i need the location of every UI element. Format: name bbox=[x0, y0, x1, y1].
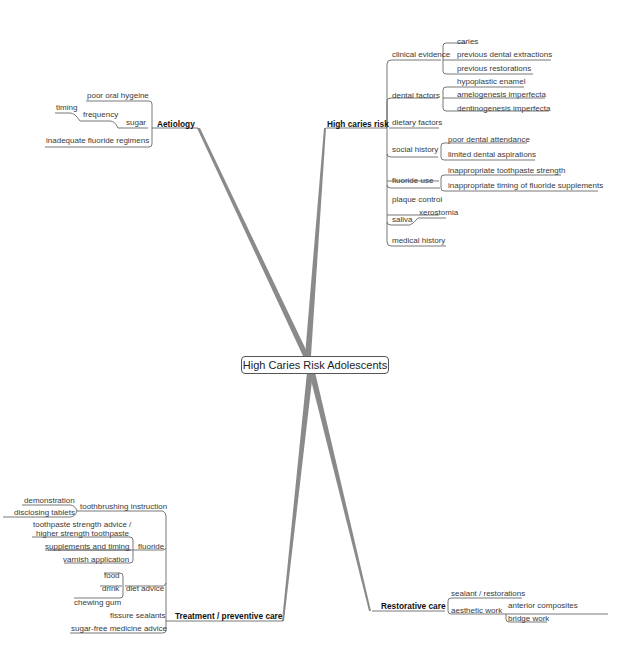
branch-high-caries-risk-label[interactable]: High caries risk bbox=[327, 119, 389, 129]
branch-restorative bbox=[309, 372, 371, 611]
node-toothbrushing-instruction[interactable]: toothbrushing instruction bbox=[80, 502, 167, 512]
node-diet-advice[interactable]: diet advice bbox=[126, 584, 164, 594]
node-dental-factors[interactable]: dental factors bbox=[392, 91, 440, 101]
node-plaque-control[interactable]: plaque control bbox=[392, 195, 442, 205]
node-food[interactable]: food bbox=[104, 571, 120, 581]
node-fluoride-use[interactable]: fluoride use bbox=[392, 176, 433, 186]
central-node[interactable]: High Caries Risk Adolescents bbox=[241, 356, 389, 374]
node-fissure-sealants[interactable]: fissure sealants bbox=[110, 611, 166, 621]
node-poor-oral-hygiene[interactable]: poor oral hygeine bbox=[87, 91, 149, 101]
branch-treatment bbox=[282, 372, 313, 621]
node-hypoplastic-enamel[interactable]: hypoplastic enamel bbox=[457, 77, 525, 87]
branch-restorative-label[interactable]: Restorative care bbox=[381, 601, 446, 611]
node-previous-restorations[interactable]: previous restorations bbox=[457, 64, 531, 74]
node-demonstration[interactable]: demonstration bbox=[24, 496, 75, 506]
node-poor-dental-attendance[interactable]: poor dental attendance bbox=[448, 135, 530, 145]
node-inappropriate-toothpaste-strength[interactable]: inappropriate toothpaste strength bbox=[448, 166, 565, 176]
node-fluoride[interactable]: fluoride bbox=[138, 542, 164, 552]
node-higher-strength-toothpaste[interactable]: higher strength toothpaste bbox=[36, 529, 129, 539]
node-previous-dental-extractions[interactable]: previous dental extractions bbox=[457, 50, 552, 60]
node-caries[interactable]: caries bbox=[457, 37, 478, 47]
node-xerostomia[interactable]: xerostomia bbox=[419, 208, 458, 218]
node-bridge-work[interactable]: bridge work bbox=[508, 614, 549, 624]
node-sealant-restorations[interactable]: sealant / restorations bbox=[451, 589, 525, 599]
branch-aetiology bbox=[197, 128, 309, 356]
node-saliva[interactable]: saliva bbox=[392, 215, 412, 225]
node-disclosing-tablets[interactable]: disclosing tablets bbox=[14, 508, 75, 518]
node-dentinogenesis-imperfecta[interactable]: dentinogenesis imperfecta bbox=[457, 104, 550, 114]
node-medical-history[interactable]: medical history bbox=[392, 236, 445, 246]
branch-aetiology-label[interactable]: Aetiology bbox=[157, 119, 195, 129]
node-supplements-and-timing[interactable]: supplements and timing bbox=[45, 542, 130, 552]
node-dietary-factors[interactable]: dietary factors bbox=[392, 118, 442, 128]
node-social-history[interactable]: social history bbox=[392, 145, 438, 155]
node-timing[interactable]: timing bbox=[56, 103, 77, 113]
node-inappropriate-timing-fluoride-supplements[interactable]: inappropriate timing of fluoride supplem… bbox=[448, 181, 603, 191]
node-aesthetic-work[interactable]: aesthetic work bbox=[451, 606, 502, 616]
node-clinical-evidence[interactable]: clinical evidence bbox=[392, 50, 450, 60]
node-sugar[interactable]: sugar bbox=[126, 118, 146, 128]
node-amelogenesis-imperfecta[interactable]: amelogenesis imperfecta bbox=[457, 90, 546, 100]
node-sugar-free-medicine-advice[interactable]: sugar-free medicine advice bbox=[71, 624, 167, 634]
node-varnish-application[interactable]: varnish application bbox=[63, 555, 129, 565]
node-limited-dental-aspirations[interactable]: limited dental aspirations bbox=[448, 150, 536, 160]
node-frequency[interactable]: frequency bbox=[83, 110, 118, 120]
node-drink[interactable]: drink bbox=[102, 584, 119, 594]
node-anterior-composites[interactable]: anterior composites bbox=[508, 601, 578, 611]
node-chewing-gum[interactable]: chewing gum bbox=[74, 598, 121, 608]
branch-high-caries-risk bbox=[305, 128, 326, 356]
node-inadequate-fluoride-regimens[interactable]: inadequate fluoride regimens bbox=[46, 136, 149, 146]
branch-treatment-label[interactable]: Treatment / preventive care bbox=[175, 611, 282, 621]
